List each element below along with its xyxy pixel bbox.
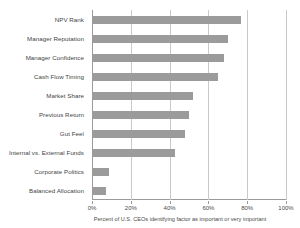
tick-label: 0% [88,204,97,212]
category-label: Manager Confidence [0,54,84,61]
bar [92,35,228,43]
bar [92,73,218,81]
bar [92,111,189,119]
category-label: Internal vs. External Funds [0,149,84,156]
bar [92,54,224,62]
category-axis-labels: NPV RankManager ReputationManager Confid… [0,10,88,200]
bar-chart: NPV RankManager ReputationManager Confid… [0,0,300,228]
gridline [286,10,287,200]
category-label: Previous Return [0,111,84,118]
tick-label: 80% [241,204,253,212]
category-label: Corporate Politics [0,168,84,175]
bar [92,130,185,138]
bar [92,187,106,195]
category-label: Balanced Allocation [0,187,84,194]
category-label: Market Share [0,92,84,99]
category-label: Manager Reputation [0,35,84,42]
tick-label: 20% [125,204,137,212]
category-label: NPV Rank [0,16,84,23]
category-label: Cash Flow Timing [0,73,84,80]
x-axis-ticks: 0%20%40%60%80%100% [92,201,286,213]
tick-label: 100% [278,204,293,212]
bar [92,16,241,24]
x-axis-line [92,199,286,200]
gridline [247,10,248,200]
bar [92,92,193,100]
category-label: Gut Feel [0,130,84,137]
bar [92,168,109,176]
tick-label: 40% [164,204,176,212]
bar [92,149,175,157]
tick-label: 60% [202,204,214,212]
x-axis-caption: Percent of U.S. CEOs identifying factor … [0,215,300,223]
plot-area [92,10,286,200]
